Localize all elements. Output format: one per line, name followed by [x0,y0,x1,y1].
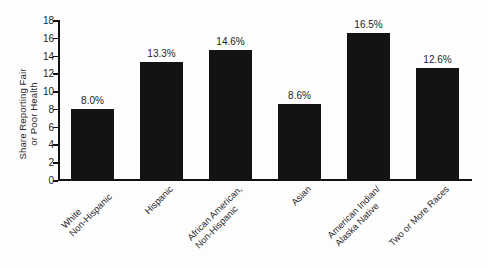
bar-value-label: 16.5% [354,19,382,30]
x-axis-label-line: Two or More Races [387,184,452,249]
y-axis-title-line-2: or Poor Health [28,82,40,145]
bar-value-label: 8.0% [81,95,104,106]
bar-group: 8.0% [71,20,114,180]
plot-area: 024681012141618 8.0%13.3%14.6%8.6%16.5%1… [58,20,472,180]
bar-value-label: 13.3% [147,48,175,59]
y-axis-tick-label: 4 [48,139,54,150]
bar-value-label: 14.6% [216,36,244,47]
bar: 8.6% [278,104,321,180]
x-axis-label: Two or More Races [387,184,452,249]
x-axis-label-line: Hispanic [142,184,175,217]
bar: 16.5% [347,33,390,180]
y-axis-tick-label: 14 [43,50,54,61]
bar-chart: Share Reporting Fair or Poor Health 0246… [0,0,488,268]
bar-value-label: 8.6% [288,90,311,101]
bar-group: 13.3% [140,20,183,180]
bar-value-label: 12.6% [423,54,451,65]
x-axis-label-line: Asian [289,184,313,208]
bar-group: 14.6% [209,20,252,180]
y-axis-tick-label: 0 [48,175,54,186]
bar: 8.0% [71,109,114,180]
x-axis-label: American Indian/Alaska Native [325,184,390,249]
x-axis-label: Asian [289,184,313,208]
y-axis-tick-label: 2 [48,157,54,168]
bar: 12.6% [416,68,459,180]
y-axis-tick-label: 18 [43,15,54,26]
y-axis-tick-label: 10 [43,86,54,97]
bar-group: 8.6% [278,20,321,180]
bar: 13.3% [140,62,183,180]
bar-group: 16.5% [347,20,390,180]
bar-group: 12.6% [416,20,459,180]
x-axis-label: Hispanic [142,184,175,217]
bar: 14.6% [209,50,252,180]
y-axis-title: Share Reporting Fair or Poor Health [11,39,45,189]
y-axis-tick-label: 16 [43,32,54,43]
y-axis-title-line-1: Share Reporting Fair [17,68,29,159]
y-axis-tick-label: 12 [43,68,54,79]
x-axis-label: African American,Non-Hispanic [185,184,252,251]
x-axis-label: WhiteNon-Hispanic [59,184,114,239]
y-axis-tick-label: 8 [48,103,54,114]
y-axis-tick-label: 6 [48,121,54,132]
